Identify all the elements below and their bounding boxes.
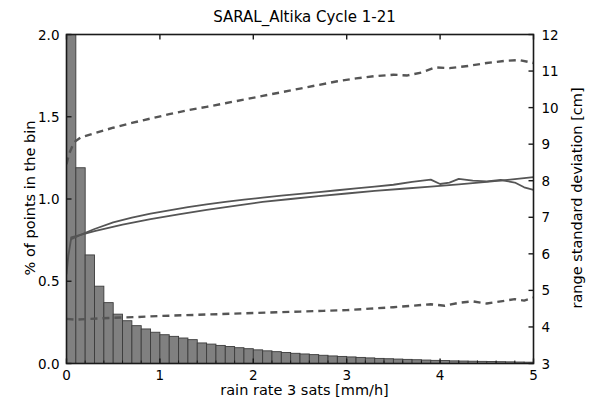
histogram-bar <box>160 335 169 364</box>
plot-canvas: 0123450.00.51.01.52.03456789101112 <box>0 0 609 411</box>
plot-frame <box>67 35 534 364</box>
histogram-bar <box>85 255 94 364</box>
chart-figure: SARAL_Altika Cycle 1-21 0123450.00.51.01… <box>0 0 609 411</box>
y-tick-label-left: 1.5 <box>38 109 59 125</box>
histogram-bar <box>216 345 225 363</box>
histogram-bar <box>123 321 132 364</box>
y-axis-label-left: % of points in the bin <box>22 83 38 313</box>
histogram-bar <box>347 357 356 364</box>
y-tick-label-right: 8 <box>542 173 551 189</box>
histogram-bar <box>132 326 141 364</box>
histogram-bar <box>281 352 290 363</box>
histogram-bar <box>337 356 346 363</box>
histogram-bar <box>76 168 85 364</box>
histogram-bar <box>95 286 104 363</box>
histogram-bar <box>235 348 244 364</box>
y-tick-label-right: 3 <box>542 356 551 372</box>
histogram-bar <box>113 314 122 363</box>
y-tick-label-right: 5 <box>542 282 551 298</box>
y-tick-label-right: 4 <box>542 319 551 335</box>
y-tick-label-right: 9 <box>542 136 551 152</box>
histogram-bar <box>104 303 113 364</box>
x-tick-label: 3 <box>342 367 351 383</box>
histogram-bar <box>365 358 374 364</box>
histogram-bar <box>207 344 216 363</box>
histogram-bar <box>151 332 160 363</box>
series-line <box>67 60 534 164</box>
histogram-bar <box>244 349 253 364</box>
x-tick-label: 5 <box>529 367 538 383</box>
y-tick-label-right: 6 <box>542 246 551 262</box>
y-axis-label-right: range standard deviation [cm] <box>569 83 585 313</box>
histogram-bar <box>169 336 178 363</box>
y-tick-label-right: 12 <box>542 27 559 43</box>
x-axis-label: rain rate 3 sats [mm/h] <box>0 382 609 398</box>
x-tick-label: 4 <box>436 367 445 383</box>
series-line <box>71 177 533 237</box>
histogram-bar <box>309 355 318 364</box>
y-tick-label-right: 10 <box>542 100 559 116</box>
y-tick-label-right: 11 <box>542 63 559 79</box>
x-tick-label: 0 <box>62 367 71 383</box>
histogram-bar <box>319 355 328 363</box>
histogram-bar <box>188 340 197 364</box>
histogram-bar <box>197 343 206 364</box>
series-line <box>71 179 533 239</box>
histogram-bar <box>272 352 281 364</box>
histogram-bar <box>300 354 309 364</box>
histogram-bar <box>356 357 365 363</box>
y-tick-label-left: 0.5 <box>38 273 59 289</box>
x-tick-label: 1 <box>156 367 165 383</box>
histogram-bar <box>263 351 272 364</box>
series-line <box>67 298 534 320</box>
y-tick-label-left: 1.0 <box>38 191 59 207</box>
histogram-bar <box>291 353 300 363</box>
histogram-bar <box>328 356 337 364</box>
y-tick-label-left: 0.0 <box>38 356 59 372</box>
histogram-bar <box>179 338 188 363</box>
histogram-bar <box>253 350 262 364</box>
y-tick-label-right: 7 <box>542 209 551 225</box>
histogram-bar <box>141 329 150 364</box>
x-tick-label: 2 <box>249 367 258 383</box>
histogram-bar <box>225 347 234 364</box>
y-tick-label-left: 2.0 <box>38 27 59 43</box>
